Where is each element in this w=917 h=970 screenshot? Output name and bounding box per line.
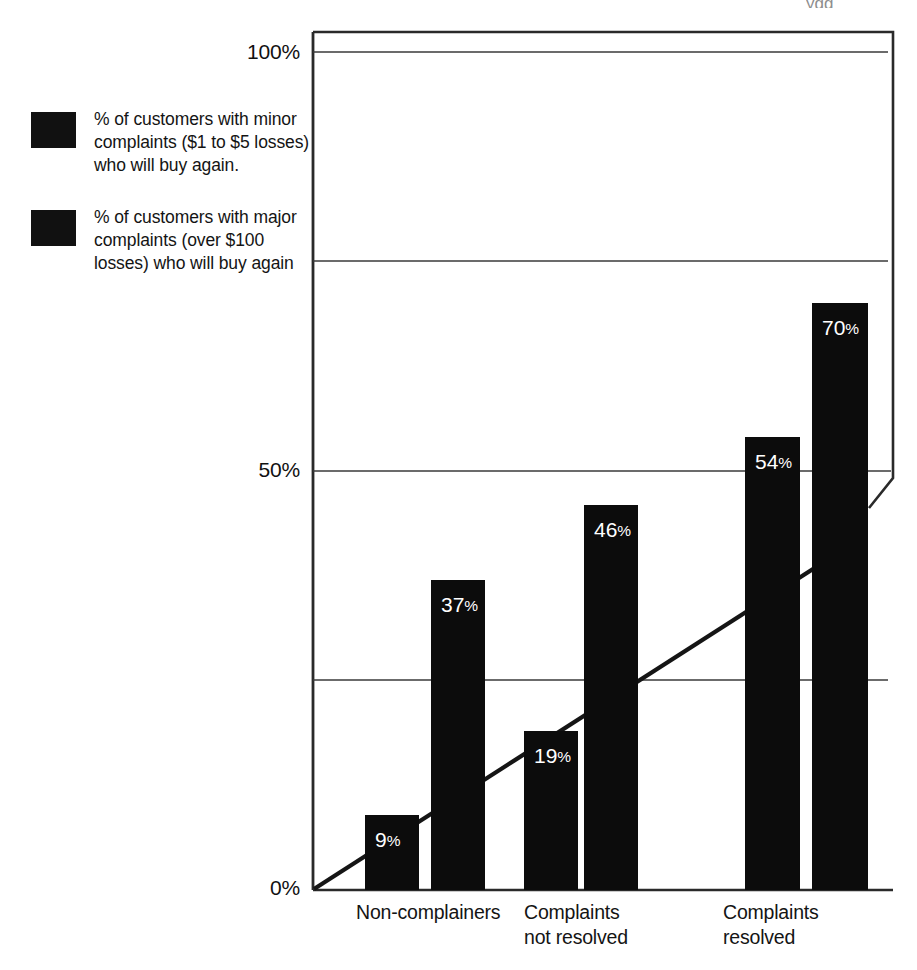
chart-figure: ygg % of customers with minor complaints… <box>0 0 917 970</box>
legend-swatch-icon <box>31 210 76 246</box>
legend-swatch-icon <box>31 112 76 148</box>
bar-not-resolved-major <box>584 505 638 890</box>
bar-resolved-major <box>812 303 868 890</box>
x-axis-labels: Non-complainers Complaints not resolved … <box>313 900 913 970</box>
bar-value-label: 46% <box>594 519 631 540</box>
x-category-label-complaints-resolved: Complaints resolved <box>723 900 819 950</box>
bar-value-label: 9% <box>375 829 400 850</box>
scan-artifact: ygg <box>806 0 840 8</box>
bar-resolved-minor <box>745 437 800 890</box>
x-category-label-non-complainers: Non-complainers <box>356 900 500 925</box>
bar-value-label: 19% <box>534 745 571 766</box>
bar-non-complainers-major <box>431 580 485 890</box>
bar-value-label: 54% <box>755 451 792 472</box>
outer-frame-line <box>313 32 893 508</box>
bar-non-complainers-minor <box>365 815 419 890</box>
x-category-label-complaints-not-resolved: Complaints not resolved <box>524 900 628 950</box>
bar-value-label: 70% <box>822 317 859 338</box>
plot-area: 9% 37% 19% 46% 54% 70% <box>313 52 888 890</box>
bar-value-label: 37% <box>441 594 478 615</box>
